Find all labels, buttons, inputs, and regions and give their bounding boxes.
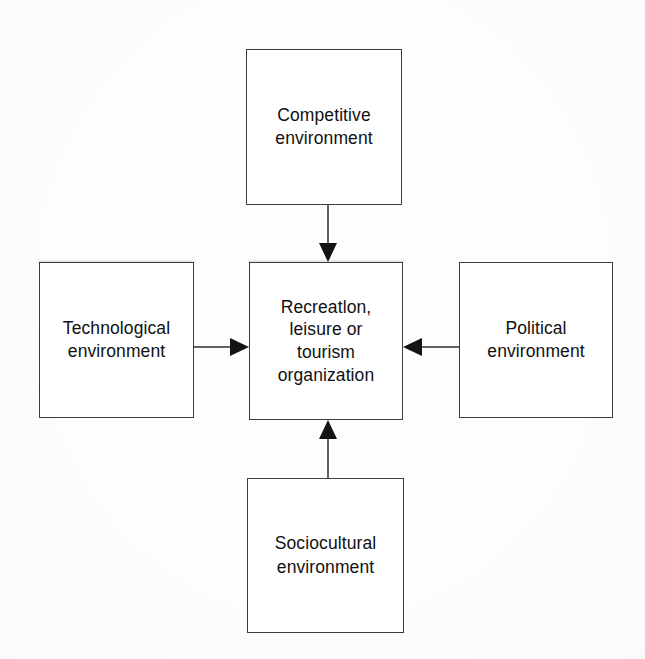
node-competitive-environment[interactable]: Competitive environment (246, 49, 402, 205)
node-political-environment[interactable]: Political environment (459, 262, 613, 418)
node-center-organization-label: Recreatlon, leisure or tourism organizat… (272, 296, 381, 387)
node-competitive-environment-label: Competitive environment (269, 104, 378, 151)
connector-competitive-to-center (319, 205, 337, 262)
node-technological-environment-label: Technological environment (57, 317, 176, 364)
connector-sociocultural-to-center (319, 420, 337, 478)
connector-political-to-center (403, 338, 459, 356)
node-political-environment-label: Political environment (481, 317, 590, 364)
arrowhead-right-icon (230, 338, 249, 356)
node-sociocultural-environment-label: Sociocultural environment (269, 532, 383, 579)
arrowhead-left-icon (403, 338, 422, 356)
node-sociocultural-environment[interactable]: Sociocultural environment (247, 478, 404, 633)
node-center-organization[interactable]: Recreatlon, leisure or tourism organizat… (249, 262, 403, 420)
node-technological-environment[interactable]: Technological environment (39, 262, 194, 418)
diagram-canvas: Competitive environment Technological en… (0, 0, 645, 659)
connector-technological-to-center (194, 338, 249, 356)
arrowhead-down-icon (319, 243, 337, 262)
arrowhead-up-icon (319, 420, 337, 439)
